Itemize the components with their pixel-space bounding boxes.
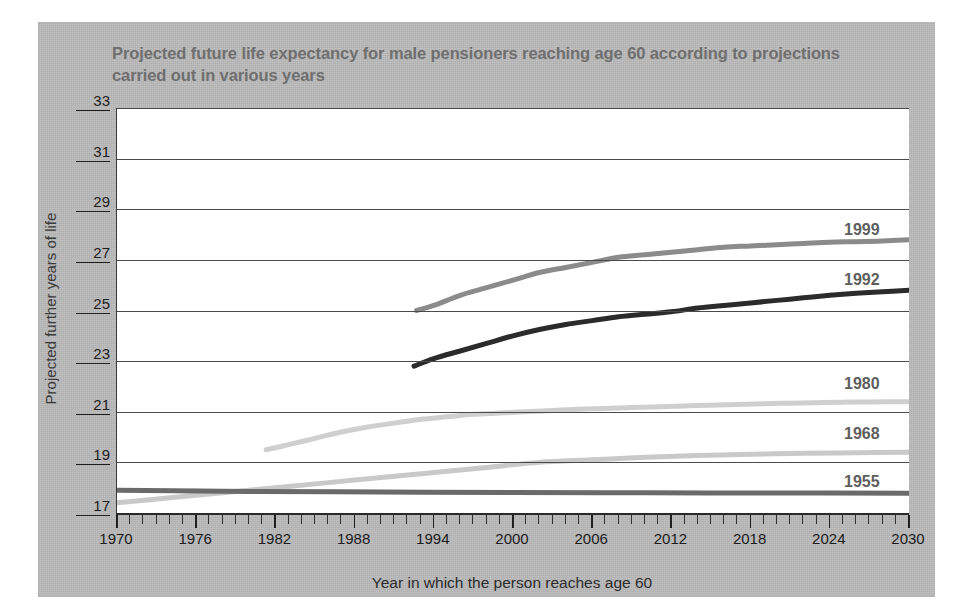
y-axis-tick-label: 33 bbox=[76, 93, 110, 111]
gridline bbox=[117, 311, 909, 312]
chart-title: Projected future life expectancy for mal… bbox=[112, 42, 852, 86]
x-axis-minor-tick bbox=[235, 515, 236, 524]
x-axis-minor-tick bbox=[169, 515, 170, 524]
x-axis-minor-tick bbox=[129, 515, 130, 524]
x-axis-tick-label: 2012 bbox=[640, 530, 700, 547]
x-axis-minor-tick bbox=[208, 515, 209, 524]
x-axis-minor-tick bbox=[618, 515, 619, 524]
x-axis-minor-tick bbox=[882, 515, 883, 524]
series-label-1980: 1980 bbox=[844, 375, 880, 393]
x-axis-minor-tick bbox=[684, 515, 685, 524]
y-axis-tick-label: 17 bbox=[76, 498, 110, 516]
x-axis-minor-tick bbox=[327, 515, 328, 524]
series-label-1992: 1992 bbox=[844, 271, 880, 289]
series-line-1955 bbox=[117, 490, 909, 493]
x-axis-minor-tick bbox=[367, 515, 368, 524]
x-axis-minor-tick bbox=[156, 515, 157, 524]
x-axis-tick-label: 2024 bbox=[799, 530, 859, 547]
x-axis-tick-label: 1994 bbox=[403, 530, 463, 547]
x-axis-minor-tick bbox=[314, 515, 315, 524]
x-axis-minor-tick bbox=[340, 515, 341, 524]
y-axis-tick-label: 29 bbox=[76, 194, 110, 212]
x-axis-minor-tick bbox=[604, 515, 605, 524]
x-axis-minor-tick bbox=[565, 515, 566, 524]
y-axis-tick-label: 31 bbox=[76, 144, 110, 162]
gridline bbox=[117, 159, 909, 160]
x-axis-major-tick bbox=[116, 515, 118, 528]
y-axis-tick-label: 21 bbox=[76, 397, 110, 415]
x-axis-minor-tick bbox=[406, 515, 407, 524]
x-axis-major-tick bbox=[354, 515, 356, 528]
y-axis-tick-label: 23 bbox=[76, 346, 110, 364]
x-axis-minor-tick bbox=[802, 515, 803, 524]
x-axis-tick-label: 2006 bbox=[561, 530, 621, 547]
y-axis-label: Projected further years of life bbox=[42, 159, 59, 459]
x-axis-minor-tick bbox=[538, 515, 539, 524]
x-axis-minor-tick bbox=[142, 515, 143, 524]
x-axis-minor-tick bbox=[222, 515, 223, 524]
plot-area bbox=[116, 108, 909, 513]
gridline bbox=[117, 462, 909, 463]
x-axis-minor-tick bbox=[842, 515, 843, 524]
x-axis-major-tick bbox=[750, 515, 752, 528]
x-axis-minor-tick bbox=[301, 515, 302, 524]
x-axis-minor-tick bbox=[182, 515, 183, 524]
gridline bbox=[117, 209, 909, 210]
y-axis-tick-label: 27 bbox=[76, 245, 110, 263]
x-axis-minor-tick bbox=[380, 515, 381, 524]
x-axis-label: Year in which the person reaches age 60 bbox=[116, 574, 908, 592]
x-axis-major-tick bbox=[195, 515, 197, 528]
gridline bbox=[117, 108, 909, 109]
x-axis-minor-tick bbox=[248, 515, 249, 524]
x-axis-minor-tick bbox=[657, 515, 658, 524]
x-axis-minor-tick bbox=[393, 515, 394, 524]
x-axis-minor-tick bbox=[446, 515, 447, 524]
x-axis-minor-tick bbox=[525, 515, 526, 524]
y-axis-tick-label: 25 bbox=[76, 296, 110, 314]
series-label-1999: 1999 bbox=[844, 221, 880, 239]
x-axis-minor-tick bbox=[868, 515, 869, 524]
x-axis-tick-label: 2030 bbox=[878, 530, 938, 547]
y-axis-tick-label: 19 bbox=[76, 447, 110, 465]
x-axis-minor-tick bbox=[723, 515, 724, 524]
x-axis-minor-tick bbox=[631, 515, 632, 524]
x-axis-tick-label: 2000 bbox=[482, 530, 542, 547]
x-axis-minor-tick bbox=[710, 515, 711, 524]
x-axis-tick-label: 2018 bbox=[720, 530, 780, 547]
x-axis-major-tick bbox=[591, 515, 593, 528]
x-axis-minor-tick bbox=[816, 515, 817, 524]
series-label-1955: 1955 bbox=[844, 473, 880, 491]
x-axis: 1970197619821988199420002006201220182024… bbox=[116, 513, 909, 515]
x-axis-minor-tick bbox=[459, 515, 460, 524]
series-label-1968: 1968 bbox=[844, 425, 880, 443]
gridline bbox=[117, 412, 909, 413]
x-axis-tick-label: 1982 bbox=[244, 530, 304, 547]
y-axis-tick-labels: 171921232527293133 bbox=[74, 108, 110, 513]
x-axis-minor-tick bbox=[552, 515, 553, 524]
x-axis-major-tick bbox=[433, 515, 435, 528]
x-axis-minor-tick bbox=[736, 515, 737, 524]
x-axis-minor-tick bbox=[855, 515, 856, 524]
x-axis-tick-label: 1970 bbox=[86, 530, 146, 547]
gridline bbox=[117, 260, 909, 261]
x-axis-minor-tick bbox=[789, 515, 790, 524]
x-axis-minor-tick bbox=[261, 515, 262, 524]
gridline bbox=[117, 361, 909, 362]
x-axis-major-tick bbox=[829, 515, 831, 528]
x-axis-minor-tick bbox=[776, 515, 777, 524]
x-axis-major-tick bbox=[512, 515, 514, 528]
series-line-1992 bbox=[414, 290, 909, 366]
x-axis-minor-tick bbox=[420, 515, 421, 524]
series-line-1980 bbox=[266, 402, 909, 450]
x-axis-minor-tick bbox=[763, 515, 764, 524]
x-axis-minor-tick bbox=[578, 515, 579, 524]
chart-figure: Projected future life expectancy for mal… bbox=[0, 0, 953, 614]
x-axis-minor-tick bbox=[697, 515, 698, 524]
x-axis-minor-tick bbox=[486, 515, 487, 524]
x-axis-minor-tick bbox=[288, 515, 289, 524]
x-axis-tick-label: 1988 bbox=[324, 530, 384, 547]
x-axis-major-tick bbox=[274, 515, 276, 528]
x-axis-minor-tick bbox=[499, 515, 500, 524]
x-axis-major-tick bbox=[670, 515, 672, 528]
x-axis-minor-tick bbox=[895, 515, 896, 524]
